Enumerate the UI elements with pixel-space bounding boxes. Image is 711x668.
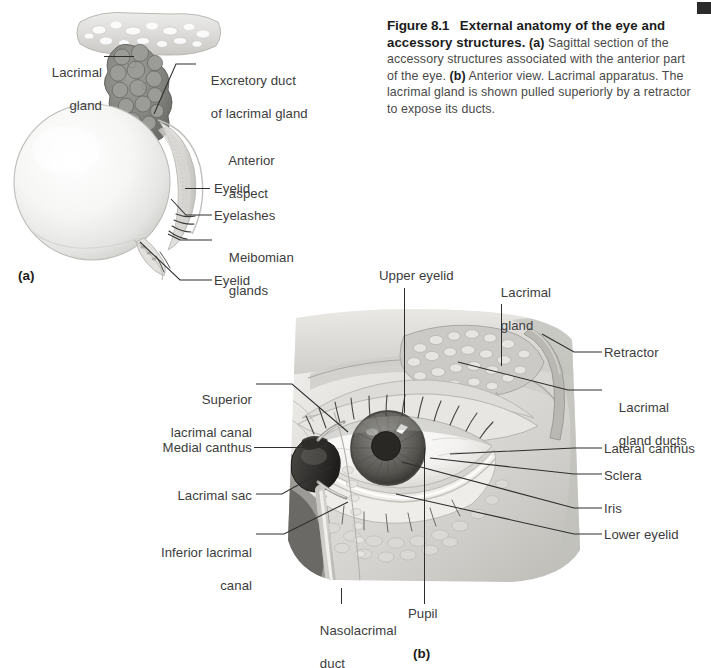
leader-b-lacrimal-sac — [254, 462, 334, 498]
leader-b-nasolacrimal-duct — [341, 588, 342, 604]
label-b-lateral-canthus: Lateral canthus — [604, 441, 695, 458]
label-a-excretory-duct: Excretory duct of lacrimal gland — [196, 56, 308, 139]
leader-a-eyelid-lower — [136, 236, 214, 284]
label-b-retractor: Retractor — [604, 345, 659, 362]
caption-part-b-marker: (b) — [450, 69, 466, 83]
leader-a-eyelashes — [166, 195, 214, 219]
label-a-eyelid-upper: Eyelid — [214, 181, 250, 198]
label-b-pupil: Pupil — [408, 606, 438, 623]
caption-part-a-marker: (a) — [529, 36, 544, 50]
label-a-eyelashes: Eyelashes — [214, 208, 275, 225]
leader-b-lacrimal-gland-ducts — [456, 358, 604, 396]
label-a-lacrimal-gland: Lacrimal gland — [14, 48, 102, 131]
label-a-anterior-aspect: Anterior aspect — [214, 136, 275, 219]
leader-b-lower-eyelid — [394, 486, 604, 538]
label-b-iris: Iris — [604, 501, 622, 518]
panel-b-marker: (b) — [413, 646, 430, 661]
figure-number: Figure 8.1 — [387, 18, 449, 33]
label-a-eyelid-lower: Eyelid — [214, 273, 250, 290]
figure-page: Figure 8.1 External anatomy of the eye a… — [0, 0, 711, 668]
page-corner-mark — [697, 2, 711, 14]
leader-b-lacrimal-gland — [501, 304, 502, 366]
leader-a-eyelid-upper — [185, 188, 210, 189]
leader-b-medial-canthus — [254, 447, 310, 448]
label-b-medial-canthus: Medial canthus — [150, 440, 252, 457]
label-b-upper-eyelid: Upper eyelid — [379, 268, 454, 285]
leader-b-superior-lacrimal-canal — [254, 378, 350, 438]
leader-a-lacrimal-gland — [104, 56, 134, 57]
panel-a-marker: (a) — [18, 268, 34, 283]
leader-b-pupil — [424, 448, 425, 604]
figure-caption: Figure 8.1 External anatomy of the eye a… — [387, 18, 697, 118]
label-b-lacrimal-sac: Lacrimal sac — [152, 488, 252, 505]
leader-a-excretory-duct — [140, 58, 200, 142]
label-b-nasolacrimal-duct: Nasolacrimal duct — [305, 606, 397, 668]
label-b-inferior-lacrimal-canal: Inferior lacrimal canal — [136, 528, 252, 611]
label-b-sclera: Sclera — [604, 468, 642, 485]
leader-b-inferior-lacrimal-canal — [254, 498, 350, 538]
label-b-lower-eyelid: Lower eyelid — [604, 527, 679, 544]
leader-b-upper-eyelid — [404, 288, 405, 413]
